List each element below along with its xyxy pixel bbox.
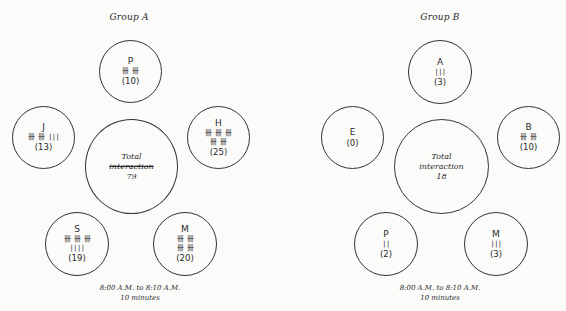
member-name: M	[181, 224, 189, 235]
member-name: E	[350, 127, 356, 138]
member-count: (20)	[176, 253, 193, 264]
group-a-member-s: S 卌 卌 卌 |||| (19)	[45, 212, 109, 276]
total-value: 18	[436, 172, 446, 182]
total-label: Total	[121, 152, 141, 162]
member-name: P	[128, 56, 133, 67]
group-a-footer: 8:00 A.M. to 8:10 A.M. 10 minutes	[100, 283, 181, 303]
duration: 10 minutes	[400, 293, 481, 303]
tally-marks: 卌 卌	[177, 235, 194, 244]
tally-marks: ||	[382, 240, 389, 249]
tally-marks: 卌 卌 卌	[205, 129, 232, 138]
total-value: 79	[126, 172, 136, 182]
group-b-footer: 8:00 A.M. to 8:10 A.M. 10 minutes	[400, 283, 481, 303]
group-b-title: Group B	[420, 12, 459, 22]
interaction-label: interaction	[109, 162, 153, 172]
group-b-member-e: E (0)	[321, 106, 384, 169]
tally-marks: 卌 卌	[122, 67, 139, 76]
member-count: (10)	[520, 142, 537, 153]
group-a-member-h: H 卌 卌 卌 卌 卌 (25)	[187, 106, 250, 169]
tally-marks: |||	[434, 68, 445, 77]
group-a-member-j: J 卌 卌 ||| (13)	[12, 106, 75, 169]
group-b-member-m: M ||| (3)	[464, 212, 528, 276]
member-name: S	[74, 224, 80, 235]
member-count: (2)	[380, 249, 392, 260]
member-count: (25)	[210, 147, 227, 158]
group-a-member-p: P 卌 卌 (10)	[99, 40, 162, 103]
interaction-label: interaction	[419, 162, 463, 172]
member-count: (0)	[346, 138, 358, 149]
member-name: A	[437, 57, 443, 68]
time-range: 8:00 A.M. to 8:10 A.M.	[100, 283, 181, 293]
group-b-total-circle: Total interaction 18	[394, 119, 489, 214]
member-name: P	[383, 229, 388, 240]
group-a-member-m: M 卌 卌 卌 卌 (20)	[153, 212, 217, 276]
member-name: B	[525, 122, 531, 133]
tally-marks: |||	[490, 240, 501, 249]
member-count: (10)	[122, 76, 139, 87]
member-count: (13)	[35, 142, 52, 153]
member-count: (19)	[68, 253, 85, 264]
tally-marks: 卌 卌	[520, 133, 537, 142]
member-name: J	[42, 122, 45, 133]
group-a-title: Group A	[109, 12, 148, 22]
member-name: M	[492, 229, 500, 240]
member-count: (3)	[490, 249, 502, 260]
group-b-member-p: P || (2)	[354, 212, 418, 276]
total-label: Total	[431, 152, 451, 162]
tally-marks: 卌 卌	[210, 138, 227, 147]
tally-marks: 卌 卌 |||	[28, 133, 60, 142]
member-name: H	[215, 118, 222, 129]
group-b-member-a: A ||| (3)	[408, 40, 472, 104]
member-count: (3)	[434, 77, 446, 88]
tally-marks: ||||	[70, 244, 85, 253]
tally-marks: 卌 卌 卌	[64, 235, 91, 244]
duration: 10 minutes	[100, 293, 181, 303]
group-b-member-b: B 卌 卌 (10)	[497, 106, 560, 169]
group-a-total-circle: Total interaction 79	[85, 119, 178, 214]
time-range: 8:00 A.M. to 8:10 A.M.	[400, 283, 481, 293]
tally-marks: 卌 卌	[177, 244, 194, 253]
